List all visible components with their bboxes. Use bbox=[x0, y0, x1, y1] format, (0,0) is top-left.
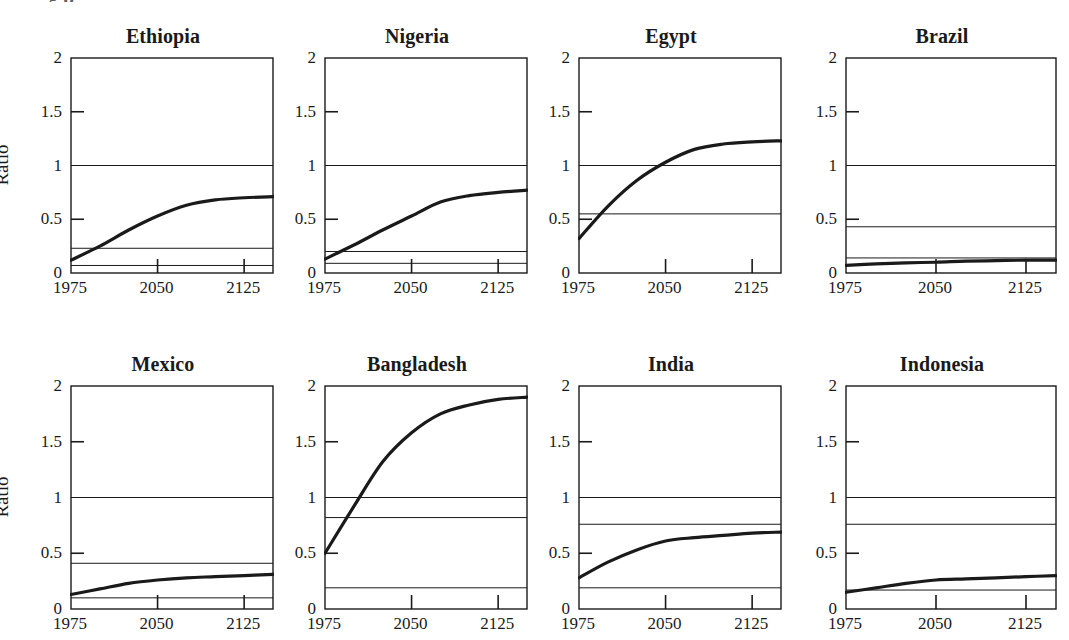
plot-area-ethiopia bbox=[70, 57, 272, 272]
y-tick-label: 0.5 bbox=[518, 544, 570, 561]
y-tick-label: 1 bbox=[264, 489, 316, 506]
y-tick-label: 0.5 bbox=[785, 544, 837, 561]
plot-area-mexico bbox=[70, 385, 272, 608]
plot-svg-mexico bbox=[70, 385, 274, 610]
x-tick-label: 1975 bbox=[40, 279, 100, 296]
plot-svg-india bbox=[578, 385, 782, 610]
y-tick-label: 1 bbox=[785, 157, 837, 174]
panel-title-egypt: Egypt bbox=[570, 25, 772, 48]
data-line-ethiopia bbox=[71, 197, 273, 260]
panel-ethiopia: Ethiopia00.511.52197520502125 bbox=[10, 25, 278, 302]
plot-svg-ethiopia bbox=[70, 57, 274, 274]
x-tick-label: 2125 bbox=[995, 615, 1055, 632]
x-tick-label: 2125 bbox=[721, 279, 781, 296]
y-tick-label: 1.5 bbox=[518, 103, 570, 120]
x-tick-label: 2050 bbox=[635, 615, 695, 632]
y-axis-title: Ratio bbox=[0, 125, 13, 205]
data-line-mexico bbox=[71, 574, 273, 594]
y-tick-label: 0.5 bbox=[264, 544, 316, 561]
panel-india: India00.511.52197520502125 bbox=[518, 353, 786, 638]
plot-area-brazil bbox=[845, 57, 1055, 272]
panel-title-india: India bbox=[570, 353, 772, 376]
y-tick-label: 0.5 bbox=[10, 544, 62, 561]
panel-title-ethiopia: Ethiopia bbox=[62, 25, 264, 48]
plot-svg-bangladesh bbox=[324, 385, 528, 610]
y-tick-label: 1.5 bbox=[785, 103, 837, 120]
y-tick-label: 1.5 bbox=[785, 433, 837, 450]
y-tick-label: 1 bbox=[10, 157, 62, 174]
plot-svg-nigeria bbox=[324, 57, 528, 274]
x-tick-label: 1975 bbox=[548, 615, 608, 632]
y-tick-label: 1.5 bbox=[10, 103, 62, 120]
y-tick-label: 2 bbox=[518, 49, 570, 66]
y-tick-label: 2 bbox=[264, 377, 316, 394]
data-line-egypt bbox=[579, 141, 781, 239]
x-tick-label: 1975 bbox=[294, 279, 354, 296]
y-tick-label: 2 bbox=[10, 49, 62, 66]
x-tick-label: 2125 bbox=[995, 279, 1055, 296]
plot-area-egypt bbox=[578, 57, 780, 272]
plot-area-india bbox=[578, 385, 780, 608]
y-tick-label: 2 bbox=[785, 377, 837, 394]
plot-area-nigeria bbox=[324, 57, 526, 272]
y-tick-label: 1.5 bbox=[264, 103, 316, 120]
data-line-nigeria bbox=[325, 190, 527, 259]
y-tick-label: 2 bbox=[10, 377, 62, 394]
y-tick-label: 1 bbox=[264, 157, 316, 174]
y-tick-label: 1.5 bbox=[10, 433, 62, 450]
x-tick-label: 2050 bbox=[905, 279, 965, 296]
y-tick-label: 2 bbox=[264, 49, 316, 66]
y-tick-label: 2 bbox=[785, 49, 837, 66]
plot-area-indonesia bbox=[845, 385, 1055, 608]
plot-svg-indonesia bbox=[845, 385, 1057, 610]
x-tick-label: 1975 bbox=[294, 615, 354, 632]
panel-title-bangladesh: Bangladesh bbox=[316, 353, 518, 376]
panel-mexico: Mexico00.511.52197520502125 bbox=[10, 353, 278, 638]
panel-title-nigeria: Nigeria bbox=[316, 25, 518, 48]
y-tick-label: 0.5 bbox=[10, 210, 62, 227]
x-tick-label: 2050 bbox=[127, 615, 187, 632]
y-axis-title: Ratio bbox=[0, 457, 13, 537]
clipped-header-text: g p bbox=[48, 0, 188, 2]
y-tick-label: 0.5 bbox=[785, 210, 837, 227]
data-line-india bbox=[579, 532, 781, 578]
x-tick-label: 2125 bbox=[721, 615, 781, 632]
x-tick-label: 1975 bbox=[40, 615, 100, 632]
y-tick-label: 2 bbox=[518, 377, 570, 394]
panel-bangladesh: Bangladesh00.511.52197520502125 bbox=[264, 353, 532, 638]
x-tick-label: 2050 bbox=[381, 279, 441, 296]
x-tick-label: 1975 bbox=[815, 615, 875, 632]
panel-title-mexico: Mexico bbox=[62, 353, 264, 376]
y-tick-label: 1.5 bbox=[264, 433, 316, 450]
x-tick-label: 2050 bbox=[905, 615, 965, 632]
panel-egypt: Egypt00.511.52197520502125 bbox=[518, 25, 786, 302]
y-tick-label: 1 bbox=[785, 489, 837, 506]
panel-brazil: Brazil00.511.52197520502125 bbox=[785, 25, 1061, 302]
y-tick-label: 0.5 bbox=[264, 210, 316, 227]
panel-title-brazil: Brazil bbox=[837, 25, 1047, 48]
x-tick-label: 1975 bbox=[815, 279, 875, 296]
y-tick-label: 0.5 bbox=[518, 210, 570, 227]
data-line-brazil bbox=[846, 260, 1056, 265]
x-tick-label: 2050 bbox=[635, 279, 695, 296]
plot-svg-egypt bbox=[578, 57, 782, 274]
panel-title-indonesia: Indonesia bbox=[837, 353, 1047, 376]
small-multiples-figure: g p Ethiopia00.511.52197520502125RatioNi… bbox=[0, 0, 1069, 640]
y-tick-label: 1.5 bbox=[518, 433, 570, 450]
plot-area-bangladesh bbox=[324, 385, 526, 608]
panel-indonesia: Indonesia00.511.52197520502125 bbox=[785, 353, 1061, 638]
panel-nigeria: Nigeria00.511.52197520502125 bbox=[264, 25, 532, 302]
y-tick-label: 1 bbox=[10, 489, 62, 506]
x-tick-label: 1975 bbox=[548, 279, 608, 296]
y-tick-label: 1 bbox=[518, 489, 570, 506]
y-tick-label: 1 bbox=[518, 157, 570, 174]
x-tick-label: 2050 bbox=[127, 279, 187, 296]
plot-svg-brazil bbox=[845, 57, 1057, 274]
data-line-bangladesh bbox=[325, 397, 527, 553]
x-tick-label: 2050 bbox=[381, 615, 441, 632]
